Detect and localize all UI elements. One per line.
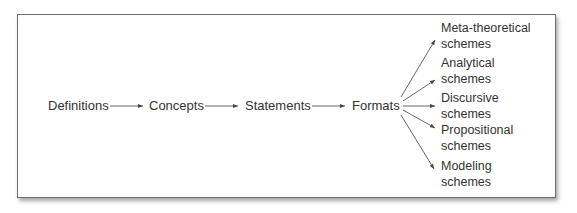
node-line1: Meta-theoretical (441, 20, 531, 36)
node-line2: schemes (441, 138, 513, 154)
node-line2: schemes (441, 71, 495, 87)
arrow-formats-analytical (403, 80, 435, 101)
node-line2: schemes (441, 36, 531, 52)
node-line1: Modeling (441, 158, 492, 174)
node-line2: schemes (441, 174, 492, 190)
node-concepts: Concepts (149, 98, 204, 113)
node-propositional-schemes: Propositional schemes (441, 122, 513, 154)
node-modeling-schemes: Modeling schemes (441, 158, 492, 190)
arrow-formats-meta (401, 40, 435, 97)
node-line1: Analytical (441, 55, 495, 71)
node-line1: Propositional (441, 122, 513, 138)
arrow-formats-modeling (401, 115, 434, 169)
node-statements: Statements (245, 98, 311, 113)
node-line2: schemes (441, 106, 499, 122)
node-formats: Formats (352, 98, 400, 113)
node-analytical-schemes: Analytical schemes (441, 55, 495, 87)
node-meta-theoretical-schemes: Meta-theoretical schemes (441, 20, 531, 52)
node-definitions: Definitions (48, 98, 109, 113)
node-discursive-schemes: Discursive schemes (441, 90, 499, 122)
node-line1: Discursive (441, 90, 499, 106)
